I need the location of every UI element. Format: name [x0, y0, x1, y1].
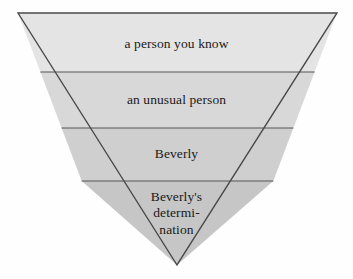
tier-label-beverly: Beverly [0, 146, 353, 161]
inverted-pyramid-diagram: a person you know an unusual person Beve… [0, 0, 353, 279]
tier-label-beverlys-determination: Beverly's determi- nation [0, 189, 353, 238]
tier-label-a-person-you-know: a person you know [0, 36, 353, 51]
tier-label-an-unusual-person: an unusual person [0, 92, 353, 107]
